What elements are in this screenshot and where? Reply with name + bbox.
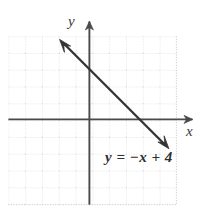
coordinate-plane [0, 0, 204, 217]
y-axis-label: y [68, 14, 75, 29]
grid-lines [8, 36, 176, 205]
graph-figure: y x y = −x + 4 [0, 0, 204, 217]
x-axis-label: x [186, 124, 193, 139]
line-equation-label: y = −x + 4 [105, 150, 173, 165]
